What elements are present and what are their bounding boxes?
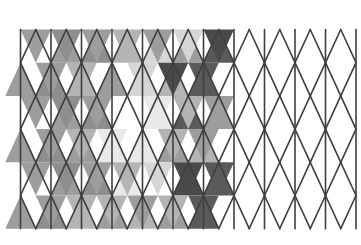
triangular-grid-svg (0, 0, 361, 245)
pattern-canvas (0, 0, 361, 245)
